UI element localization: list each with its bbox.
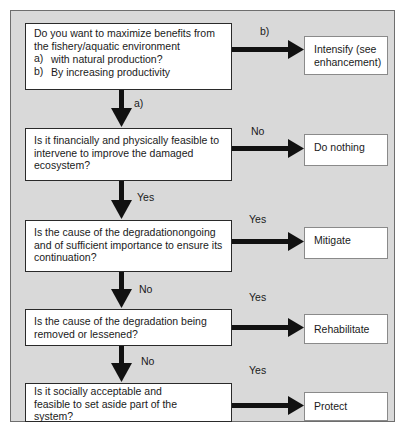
branch-label-q2-down: Yes <box>137 191 154 203</box>
branch-label-q1-down: a) <box>134 97 143 109</box>
arrow-right-q3-mitigate <box>232 232 304 251</box>
branch-label-q4-down: No <box>141 355 154 367</box>
arrow-down-q1-q2 <box>111 90 132 127</box>
branch-label-q2-right: No <box>251 125 264 137</box>
branch-label-q4-right: Yes <box>249 291 266 303</box>
arrow-down-q4-q5 <box>111 346 132 382</box>
branch-label-q3-right: Yes <box>249 213 266 225</box>
arrow-down-q3-q4 <box>111 272 132 308</box>
branch-label-q1-right: b) <box>260 25 269 37</box>
arrows-layer <box>0 0 406 437</box>
arrow-right-q4-rehabilitate <box>232 318 304 337</box>
arrow-right-q1-intensify <box>232 40 304 59</box>
branch-label-q3-down: No <box>139 283 152 295</box>
arrow-right-q2-do-nothing <box>232 139 304 158</box>
arrow-right-q5-protect <box>232 396 304 415</box>
arrow-down-q2-q3 <box>111 181 132 219</box>
branch-label-q5-right: Yes <box>249 364 266 376</box>
